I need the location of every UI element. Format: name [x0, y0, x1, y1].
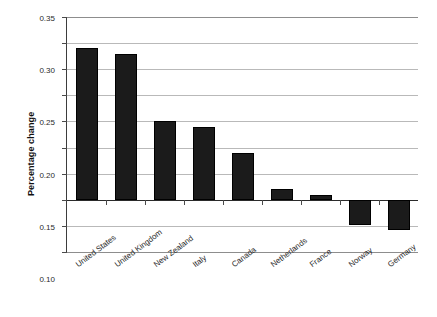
gridline — [67, 43, 418, 44]
y-tick-label: 0.35 — [39, 14, 55, 23]
bar — [154, 121, 176, 199]
x-tick-mark — [145, 200, 146, 205]
plot-area: 0.350.300.250.200.150.100.050.0-0.05-0.1 — [66, 17, 418, 252]
y-tick-label: 0.25 — [39, 118, 55, 127]
x-tick-mark — [340, 200, 341, 205]
x-tick-mark — [223, 200, 224, 205]
x-tick-mark — [301, 200, 302, 205]
y-tick-mark: 0.05 — [62, 174, 67, 175]
gridline — [67, 17, 418, 18]
y-tick-label: 0.20 — [39, 170, 55, 179]
x-tick-mark — [379, 200, 380, 205]
y-tick-mark: 0.35 — [62, 17, 67, 18]
gridline — [67, 226, 418, 227]
bar-chart: Percentage change 0.350.300.250.200.150.… — [0, 0, 437, 317]
y-tick-mark: 0.15 — [62, 121, 67, 122]
y-tick-mark: 0.30 — [62, 43, 67, 44]
y-tick-mark: -0.05 — [62, 226, 67, 227]
y-tick-label: 0.10 — [39, 275, 55, 284]
y-tick-mark: 0.25 — [62, 69, 67, 70]
bar — [76, 48, 98, 199]
x-tick-mark — [106, 200, 107, 205]
bar — [193, 127, 215, 200]
bar — [310, 195, 332, 200]
x-axis-label: Italy — [191, 253, 208, 269]
bar — [271, 189, 293, 199]
x-axis-labels: United StatesUnited KingdomNew ZealandIt… — [66, 256, 437, 317]
y-tick-mark: 0.10 — [62, 148, 67, 149]
y-tick-mark: 0.0 — [62, 200, 67, 201]
y-tick-mark: 0.20 — [62, 95, 67, 96]
bar — [232, 153, 254, 200]
x-tick-mark — [184, 200, 185, 205]
bar — [388, 200, 410, 230]
x-tick-mark — [262, 200, 263, 205]
y-tick-label: 0.30 — [39, 66, 55, 75]
bar — [349, 200, 371, 225]
y-axis-title: Percentage change — [26, 0, 40, 196]
y-tick-mark: -0.1 — [62, 252, 67, 253]
y-tick-label: 0.15 — [39, 222, 55, 231]
bar — [115, 54, 137, 200]
